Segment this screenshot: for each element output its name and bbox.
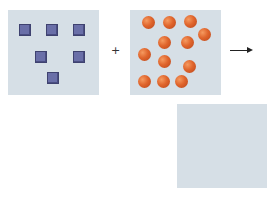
sphere-particle bbox=[183, 60, 196, 73]
square-particle bbox=[73, 51, 85, 63]
sphere-particle bbox=[158, 36, 171, 49]
sphere-particle bbox=[142, 16, 155, 29]
square-particle bbox=[47, 72, 59, 84]
sphere-particle bbox=[198, 28, 211, 41]
product-box-empty bbox=[177, 104, 267, 188]
square-particle bbox=[19, 24, 31, 36]
sphere-particle bbox=[158, 55, 171, 68]
sphere-particle bbox=[184, 15, 197, 28]
sphere-particle bbox=[163, 16, 176, 29]
reaction-arrow-icon bbox=[230, 50, 249, 51]
square-particle bbox=[35, 51, 47, 63]
sphere-particle bbox=[138, 48, 151, 61]
sphere-particle bbox=[175, 75, 188, 88]
sphere-particle bbox=[157, 75, 170, 88]
plus-sign: + bbox=[111, 45, 120, 56]
sphere-particle bbox=[138, 75, 151, 88]
square-particle bbox=[46, 24, 58, 36]
square-particle bbox=[73, 24, 85, 36]
sphere-particle bbox=[181, 36, 194, 49]
